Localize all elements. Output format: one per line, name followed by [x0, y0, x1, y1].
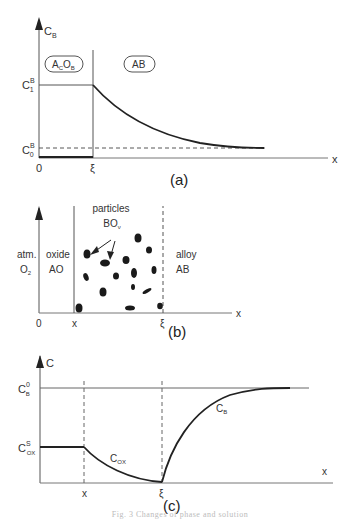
particles-group — [76, 234, 163, 313]
x-axis-label-a: x — [332, 153, 338, 165]
x-axis-label-c: x — [322, 466, 327, 477]
y-axis-arrow-icon — [36, 355, 44, 368]
tick-c1: CB1 — [22, 77, 35, 93]
panel-c — [36, 355, 333, 483]
atm-o2-label: O2 — [20, 264, 32, 276]
cb-curve-label: CB — [216, 403, 227, 415]
tick-cox: CSOX — [18, 440, 35, 456]
panel-label-b: (b) — [168, 323, 186, 340]
arrow-icon — [90, 246, 99, 255]
xi-label-b: ξ — [160, 318, 165, 330]
tick-x-b: x — [72, 318, 77, 329]
alloy-label: alloy — [176, 249, 197, 260]
oxide-formula: AO — [49, 264, 64, 275]
arrow-icon — [107, 251, 114, 260]
particles-label: particles — [92, 203, 129, 214]
region-label-oxide: ACOB — [52, 59, 75, 71]
cb-curve — [162, 388, 290, 482]
x-axis-label-b: x — [236, 308, 241, 319]
alloy-formula: AB — [176, 264, 190, 275]
tick-c0: CB0 — [22, 142, 35, 158]
panel-label-a: (a) — [170, 171, 188, 188]
figure-canvas: CB CB1 CB0 0 ξ x ACOB AB particles BOν a… — [0, 0, 346, 526]
origin-label-a: 0 — [36, 162, 42, 174]
tick-cb0: C0B — [18, 381, 30, 397]
origin-label-b: 0 — [36, 318, 42, 329]
atm-label: atm. — [17, 249, 36, 260]
y-axis-label-a: CB — [44, 25, 57, 39]
tick-x-c: x — [82, 488, 87, 499]
xi-label-a: ξ — [90, 162, 95, 174]
y-axis-label-c: C — [46, 357, 54, 369]
panel-a — [35, 17, 328, 158]
region-label-alloy: AB — [132, 59, 146, 70]
cox-curve-label: COX — [110, 453, 126, 465]
particles-formula: BOν — [103, 218, 120, 230]
figure-caption: Fig. 3 Changes of phase and solution — [60, 510, 300, 519]
oxide-label: oxide — [46, 249, 70, 260]
y-axis-arrow-icon — [35, 206, 43, 220]
y-axis-arrow-icon — [35, 17, 43, 30]
decay-curve-a — [93, 85, 264, 148]
